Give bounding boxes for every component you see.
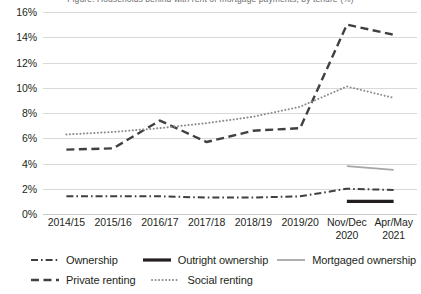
- x-axis-tick-label: Apr/May 2021: [374, 216, 412, 241]
- x-axis-tick-label: Nov/Dec 2020: [327, 216, 367, 241]
- y-axis: 0%2%4%6%8%10%12%14%16%: [0, 12, 40, 214]
- y-axis-tick-label: 16%: [16, 6, 37, 18]
- legend-swatch-icon: [276, 254, 306, 266]
- x-axis-tick-label: 2017/18: [188, 216, 225, 229]
- y-axis-tick-label: 14%: [16, 31, 37, 43]
- clipped-figure-title: Figure: Households behind with rent or m…: [0, 0, 421, 6]
- legend-swatch-icon: [30, 254, 60, 266]
- legend-item-ownership[interactable]: Ownership: [30, 250, 118, 270]
- chart-legend: OwnershipOutright ownershipMortgaged own…: [0, 250, 421, 294]
- legend-row-1: OwnershipOutright ownershipMortgaged own…: [30, 250, 421, 270]
- legend-item-private-renting[interactable]: Private renting: [30, 270, 135, 290]
- legend-item-label: Private renting: [66, 274, 135, 286]
- series-line-social-renting: [66, 86, 393, 134]
- legend-swatch-icon: [30, 274, 60, 286]
- y-axis-tick-label: 10%: [16, 82, 37, 94]
- chart-container: Figure: Households behind with rent or m…: [0, 0, 421, 294]
- x-axis-tick-label: 2014/15: [48, 216, 85, 229]
- y-axis-tick-label: 4%: [22, 158, 37, 170]
- series-line-ownership: [66, 189, 393, 198]
- y-axis-tick-label: 0%: [22, 208, 37, 220]
- series-line-mortgaged-ownership: [347, 166, 394, 170]
- y-axis-tick-label: 6%: [22, 132, 37, 144]
- legend-swatch-icon: [142, 254, 172, 266]
- legend-row-2: Private rentingSocial renting: [30, 270, 421, 290]
- gridline: [43, 214, 417, 215]
- legend-item-social-renting[interactable]: Social renting: [151, 270, 252, 290]
- y-axis-tick-label: 2%: [22, 183, 37, 195]
- x-axis-tick-label: 2015/16: [94, 216, 131, 229]
- x-axis-tick-label: 2016/17: [141, 216, 178, 229]
- legend-item-label: Mortgaged ownership: [312, 254, 416, 266]
- legend-item-label: Outright ownership: [178, 254, 269, 266]
- x-axis: 2014/152015/162016/172017/182018/192019/…: [43, 216, 417, 250]
- legend-swatch-icon: [151, 274, 181, 286]
- legend-item-label: Social renting: [187, 274, 252, 286]
- y-axis-tick-label: 12%: [16, 57, 37, 69]
- legend-item-label: Ownership: [66, 254, 118, 266]
- x-axis-tick-label: 2018/19: [235, 216, 272, 229]
- y-axis-tick-label: 8%: [22, 107, 37, 119]
- x-axis-tick-label: 2019/20: [281, 216, 318, 229]
- series-layer: [43, 12, 417, 214]
- legend-item-outright-ownership[interactable]: Outright ownership: [142, 250, 269, 270]
- plot-area: 0%2%4%6%8%10%12%14%16%: [0, 12, 421, 214]
- legend-item-mortgaged-ownership[interactable]: Mortgaged ownership: [276, 250, 416, 270]
